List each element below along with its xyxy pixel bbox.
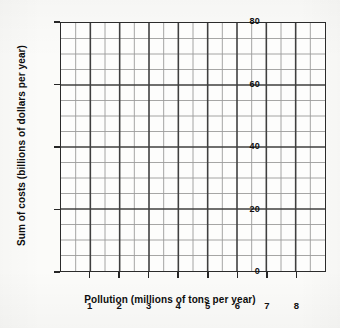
x-axis-tick bbox=[118, 272, 120, 278]
x-axis-tick bbox=[296, 272, 298, 278]
x-axis-tick-labels: 12345678 bbox=[60, 22, 326, 272]
y-axis-title: Sum of costs (billions of dollars per ye… bbox=[16, 21, 27, 271]
x-axis-tick bbox=[177, 272, 179, 278]
x-axis-tick bbox=[207, 272, 209, 278]
x-axis-title: Pollution (millions of tons per year) bbox=[0, 294, 340, 305]
x-axis-tick bbox=[266, 272, 268, 278]
x-axis-tick bbox=[89, 272, 91, 278]
chart-figure: 020406080 12345678 Pollution (millions o… bbox=[0, 0, 340, 328]
x-axis-tick bbox=[148, 272, 150, 278]
